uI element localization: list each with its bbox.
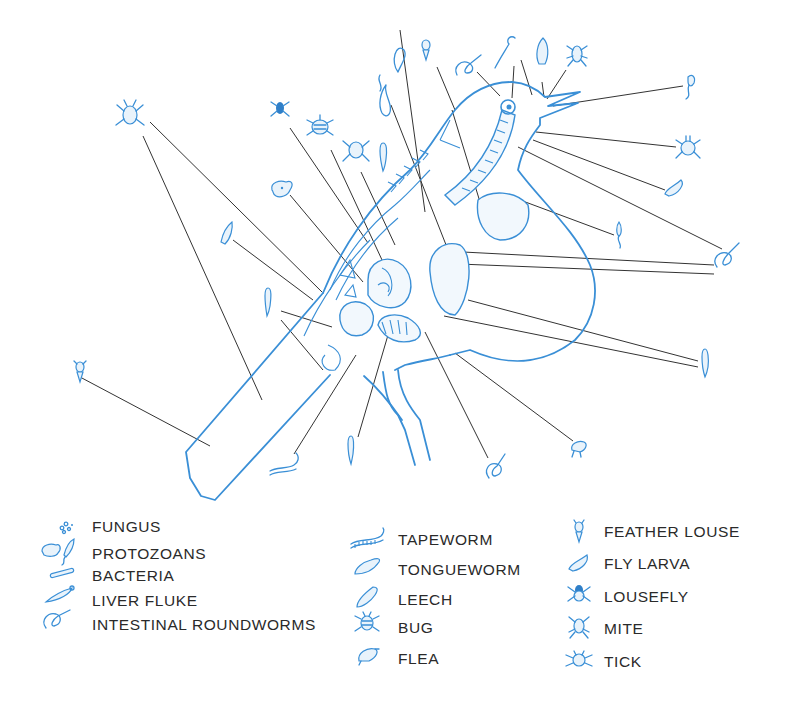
legend-label: FEATHER LOUSE bbox=[604, 523, 740, 541]
leech-icon bbox=[357, 587, 377, 607]
mite-icon bbox=[569, 617, 589, 638]
leech-icon bbox=[702, 349, 708, 377]
bacteria-icon bbox=[495, 37, 515, 68]
mite-icon bbox=[567, 46, 587, 66]
bug-icon bbox=[307, 115, 333, 135]
lousefly-icon bbox=[271, 102, 289, 116]
feather-louse-icon bbox=[574, 520, 584, 542]
fly-larva-icon bbox=[665, 180, 682, 196]
protozoan-icon bbox=[42, 539, 74, 565]
protozoan-icon bbox=[272, 181, 292, 196]
roundworm-icon bbox=[44, 610, 70, 628]
roundworm-icon bbox=[715, 243, 739, 267]
legend-item-tick: TICK bbox=[598, 651, 642, 673]
legend-label: LOUSEFLY bbox=[604, 588, 689, 606]
legend-item-mite: MITE bbox=[598, 618, 643, 640]
flea-icon bbox=[572, 441, 586, 457]
tick-icon bbox=[566, 651, 592, 666]
bug-icon bbox=[355, 612, 379, 631]
legend-label: LIVER FLUKE bbox=[92, 592, 198, 610]
legend-item-bug: BUG bbox=[392, 617, 433, 639]
legend-item-feather-louse: FEATHER LOUSE bbox=[598, 521, 740, 543]
protozoan-icon bbox=[686, 75, 695, 99]
leech-icon bbox=[348, 436, 354, 464]
tapeworm-icon bbox=[270, 453, 298, 475]
roundworm-icon bbox=[487, 454, 505, 478]
leech-icon bbox=[265, 288, 271, 316]
legend-label: TAPEWORM bbox=[398, 531, 493, 549]
liver-fluke-icon bbox=[46, 586, 74, 602]
legend-label: FUNGUS bbox=[92, 518, 161, 536]
leech-icon bbox=[380, 143, 387, 171]
legend-label: MITE bbox=[604, 620, 643, 638]
legend-item-flea: FLEA bbox=[392, 648, 439, 670]
roundworm-icon bbox=[380, 85, 390, 116]
fly-larva-icon bbox=[221, 222, 232, 244]
legend-item-fly-larva: FLY LARVA bbox=[598, 553, 690, 575]
legend-label: PROTOZOANS bbox=[92, 545, 206, 563]
mite-icon bbox=[116, 100, 144, 125]
tick-icon bbox=[676, 136, 700, 158]
legend-label: TICK bbox=[604, 653, 642, 671]
mite-icon bbox=[343, 141, 369, 161]
legend-item-protozoans: PROTOZOANS bbox=[86, 543, 206, 565]
leader-lines bbox=[80, 30, 722, 458]
legend-label: BACTERIA bbox=[92, 567, 174, 585]
tapeworm-icon bbox=[351, 528, 384, 548]
tongueworm-icon bbox=[537, 38, 548, 64]
legend-label: TONGUEWORM bbox=[398, 561, 521, 579]
legend-item-tapeworm: TAPEWORM bbox=[392, 529, 493, 551]
legend-label: LEECH bbox=[398, 591, 453, 609]
legend-item-intestinal-roundworms: INTESTINAL ROUNDWORMS bbox=[86, 614, 316, 636]
legend-label: INTESTINAL ROUNDWORMS bbox=[92, 616, 316, 634]
protozoan-icon bbox=[617, 222, 622, 248]
flea-icon bbox=[359, 649, 379, 665]
fungus-icon bbox=[60, 522, 73, 533]
protozoan-icon bbox=[379, 75, 381, 91]
legend-item-fungus: FUNGUS bbox=[86, 516, 161, 538]
feather-louse-icon bbox=[422, 40, 430, 60]
legend-label: FLY LARVA bbox=[604, 555, 690, 573]
lousefly-icon bbox=[568, 585, 590, 601]
legend-item-liver-fluke: LIVER FLUKE bbox=[86, 590, 198, 612]
legend-item-tongueworm: TONGUEWORM bbox=[392, 559, 521, 581]
legend-label: BUG bbox=[398, 619, 433, 637]
fly-larva-icon bbox=[569, 555, 587, 571]
bacteria-icon bbox=[50, 568, 74, 578]
legend-item-lousefly: LOUSEFLY bbox=[598, 586, 689, 608]
legend-item-bacteria: BACTERIA bbox=[86, 565, 174, 587]
legend-item-leech: LEECH bbox=[392, 589, 453, 611]
parasite-illustrations bbox=[74, 37, 739, 478]
legend-label: FLEA bbox=[398, 650, 439, 668]
tongueworm-icon bbox=[355, 559, 380, 574]
bird-illustration bbox=[186, 82, 595, 500]
